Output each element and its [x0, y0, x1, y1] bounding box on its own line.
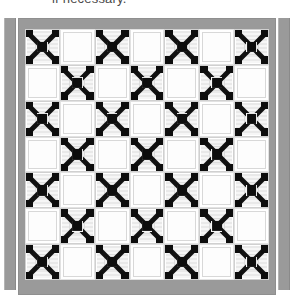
block-center-square — [247, 185, 257, 195]
quilt-block-plain-r4c1 — [25, 137, 60, 173]
block-corner-tl — [235, 245, 242, 252]
quilt-block-plain-r1c4 — [130, 29, 165, 65]
quilt-block-plain-r4c7 — [234, 137, 269, 173]
block-corner-tr — [226, 66, 233, 73]
block-center-square — [38, 114, 48, 124]
block-corner-bl — [26, 56, 33, 63]
quilt-block-plain-r7c6 — [199, 244, 234, 280]
quilt-block-x-r1c5 — [164, 29, 199, 65]
block-center-square — [247, 114, 257, 124]
quilt-block-x-r3c7 — [234, 101, 269, 137]
block-corner-tr — [52, 102, 59, 109]
quilt-block-x-r7c3 — [95, 244, 130, 280]
block-center-square — [72, 221, 82, 231]
block-center-square — [212, 78, 222, 88]
block-corner-br — [156, 164, 163, 171]
quilt-block-x-r5c1 — [25, 172, 60, 208]
quilt-block-x-r3c3 — [95, 101, 130, 137]
quilt-block-plain-r6c3 — [95, 208, 130, 244]
block-corner-tr — [121, 30, 128, 37]
block-corner-br — [121, 128, 128, 135]
quilt-block-x-r7c7 — [234, 244, 269, 280]
block-corner-bl — [200, 164, 207, 171]
block-corner-br — [191, 56, 198, 63]
quilt-block-x-r3c5 — [164, 101, 199, 137]
block-corner-tl — [200, 209, 207, 216]
quilt-block-plain-r7c4 — [130, 244, 165, 280]
block-corner-br — [121, 56, 128, 63]
block-corner-bl — [165, 272, 172, 279]
block-corner-tl — [235, 30, 242, 37]
block-corner-bl — [165, 56, 172, 63]
block-corner-br — [86, 164, 93, 171]
block-corner-bl — [96, 200, 103, 207]
block-center-square — [38, 257, 48, 267]
quilt-block-x-r6c2 — [60, 208, 95, 244]
quilt-block-x-r5c3 — [95, 172, 130, 208]
quilt-block-x-r1c3 — [95, 29, 130, 65]
quilt-block-x-r7c5 — [164, 244, 199, 280]
block-corner-bl — [61, 164, 68, 171]
block-corner-bl — [235, 128, 242, 135]
quilt-block-x-r5c7 — [234, 172, 269, 208]
stand-post-left — [4, 18, 16, 290]
block-corner-tl — [165, 30, 172, 37]
quilt-panel — [18, 18, 276, 295]
block-corner-tl — [96, 173, 103, 180]
block-center-square — [38, 42, 48, 52]
block-corner-bl — [26, 200, 33, 207]
block-corner-tr — [191, 102, 198, 109]
quilt-block-x-r7c1 — [25, 244, 60, 280]
block-corner-bl — [235, 200, 242, 207]
block-corner-tl — [131, 209, 138, 216]
block-center-square — [247, 257, 257, 267]
block-corner-tr — [156, 66, 163, 73]
block-corner-tr — [86, 138, 93, 145]
block-corner-tl — [131, 66, 138, 73]
quilt-block-plain-r6c1 — [25, 208, 60, 244]
block-corner-tr — [191, 245, 198, 252]
block-center-square — [107, 185, 117, 195]
block-corner-tr — [156, 209, 163, 216]
quilt-block-plain-r7c2 — [60, 244, 95, 280]
block-corner-br — [156, 92, 163, 99]
block-corner-bl — [61, 236, 68, 243]
block-corner-bl — [131, 164, 138, 171]
block-corner-tr — [191, 30, 198, 37]
block-center-square — [38, 185, 48, 195]
block-corner-tr — [86, 66, 93, 73]
block-corner-bl — [200, 92, 207, 99]
block-corner-br — [156, 236, 163, 243]
block-corner-br — [52, 272, 59, 279]
block-corner-tr — [191, 173, 198, 180]
quilt-scene — [0, 0, 295, 303]
quilt-block-plain-r2c3 — [95, 65, 130, 101]
block-corner-bl — [96, 272, 103, 279]
block-corner-tl — [61, 66, 68, 73]
block-corner-tl — [165, 245, 172, 252]
quilt-block-plain-r4c3 — [95, 137, 130, 173]
block-corner-bl — [61, 92, 68, 99]
block-corner-br — [121, 200, 128, 207]
quilt-block-x-r6c4 — [130, 208, 165, 244]
block-center-square — [212, 221, 222, 231]
block-corner-tr — [121, 173, 128, 180]
block-corner-bl — [165, 200, 172, 207]
block-corner-tr — [52, 173, 59, 180]
block-corner-tl — [26, 173, 33, 180]
block-corner-tr — [226, 138, 233, 145]
quilt-block-x-r3c1 — [25, 101, 60, 137]
block-corner-bl — [235, 272, 242, 279]
block-corner-br — [261, 200, 268, 207]
block-corner-br — [52, 56, 59, 63]
quilt-block-plain-r1c2 — [60, 29, 95, 65]
block-corner-br — [86, 236, 93, 243]
block-corner-tr — [261, 102, 268, 109]
block-corner-bl — [26, 128, 33, 135]
quilt-block-plain-r6c7 — [234, 208, 269, 244]
quilt-block-plain-r4c5 — [164, 137, 199, 173]
block-corner-tl — [26, 245, 33, 252]
block-corner-br — [261, 128, 268, 135]
quilt-block-x-r2c2 — [60, 65, 95, 101]
block-corner-br — [226, 236, 233, 243]
